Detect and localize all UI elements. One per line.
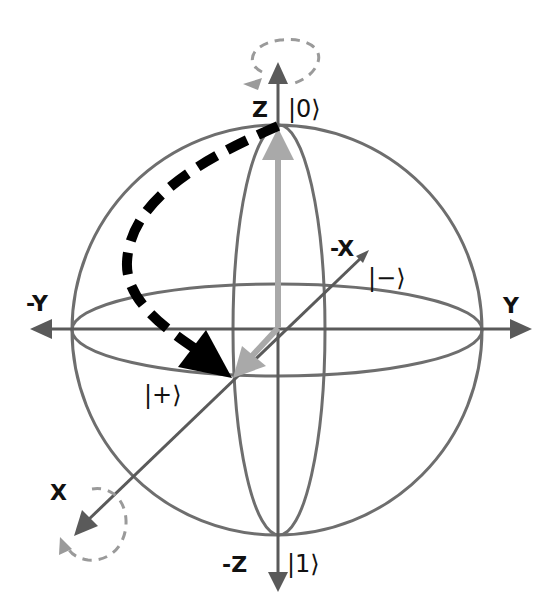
y-axis-arrowhead-icon bbox=[510, 319, 532, 339]
transition-path bbox=[127, 126, 278, 378]
label-x: X bbox=[50, 480, 67, 505]
label-z: Z bbox=[252, 97, 268, 122]
state-zero-label: |0⟩ bbox=[288, 95, 321, 123]
x-axis bbox=[74, 250, 369, 536]
grey-diagonal-arrowhead-icon bbox=[233, 346, 266, 378]
z-axis-arrowhead-icon bbox=[268, 62, 288, 84]
state-vector-grey bbox=[233, 128, 294, 378]
z-rotation-arrowhead-icon bbox=[243, 78, 262, 90]
bloch-sphere-diagram: Z -Z Y -Y X -X |0⟩ |1⟩ |+⟩ |−⟩ bbox=[0, 0, 559, 611]
neg-y-axis-arrowhead-icon bbox=[30, 319, 52, 339]
state-minus-label: |−⟩ bbox=[368, 264, 406, 292]
label-neg-x: -X bbox=[330, 236, 354, 261]
label-neg-z: -Z bbox=[222, 552, 247, 577]
label-neg-y: -Y bbox=[26, 291, 49, 316]
state-one-label: |1⟩ bbox=[287, 550, 320, 578]
neg-z-axis-arrowhead-icon bbox=[268, 572, 288, 592]
label-y: Y bbox=[502, 293, 520, 318]
state-plus-label: |+⟩ bbox=[144, 381, 182, 409]
